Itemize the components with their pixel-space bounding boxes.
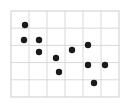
data-point: [91, 80, 97, 86]
data-point: [102, 62, 108, 68]
data-point: [85, 62, 91, 68]
data-point: [85, 42, 91, 48]
data-point: [69, 47, 75, 53]
data-point: [56, 69, 62, 75]
data-point: [21, 37, 27, 43]
scatter-plot-figure: [0, 0, 131, 109]
data-point: [36, 37, 42, 43]
data-point: [53, 55, 59, 61]
data-point: [36, 49, 42, 55]
scatter-plot-canvas: [0, 0, 131, 109]
data-point: [22, 22, 28, 28]
